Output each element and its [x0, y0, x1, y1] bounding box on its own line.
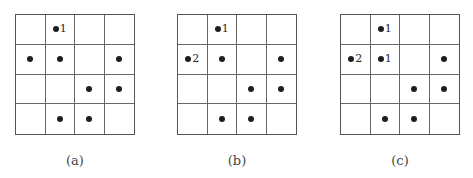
grid-cell: [237, 75, 267, 105]
dot-marker-icon: [248, 86, 254, 92]
grid-cell: [237, 15, 267, 45]
dot-marker-icon: [215, 26, 221, 32]
grid-cell: [430, 104, 460, 134]
grid-cell: [237, 104, 267, 134]
dot-marker-icon: [441, 56, 447, 62]
grid-cell: [430, 15, 460, 45]
grid-cell: [208, 104, 238, 134]
grid-cell: [237, 45, 267, 75]
grid-c: 121: [340, 14, 460, 135]
dot-marker-icon: [411, 116, 417, 122]
grid-cell: 1: [208, 15, 238, 45]
dot-marker-icon: [348, 56, 354, 62]
grid-b: 12: [177, 14, 297, 135]
dot-marker-icon: [278, 56, 284, 62]
grid-cell: [267, 75, 297, 105]
grid-cell: [430, 75, 460, 105]
grid-cell: [267, 15, 297, 45]
grid-cell: [400, 15, 430, 45]
caption-c: (c): [340, 153, 460, 168]
dot-marker-icon: [278, 86, 284, 92]
dot-marker-icon: [378, 56, 384, 62]
dot-marker-icon: [219, 116, 225, 122]
grid-cell: [178, 15, 208, 45]
grid-cell: [341, 75, 371, 105]
dot-label: 1: [385, 53, 392, 64]
grid-cell: [400, 45, 430, 75]
dot-marker-icon: [382, 116, 388, 122]
grid-cell: 2: [178, 45, 208, 75]
grid-cell: 1: [371, 15, 401, 45]
dot-marker-icon: [378, 26, 384, 32]
dot-marker-icon: [219, 56, 225, 62]
panel-c: 121 (c): [0, 0, 160, 178]
grid-cell: [267, 45, 297, 75]
dot-marker-icon: [248, 116, 254, 122]
dot-label: 2: [192, 53, 199, 64]
grid-cell: [341, 15, 371, 45]
grid-cell: [371, 104, 401, 134]
grid-cell: 2: [341, 45, 371, 75]
grid-cell: 1: [371, 45, 401, 75]
grid-cell: [178, 75, 208, 105]
grid-cell: [267, 104, 297, 134]
dot-marker-icon: [185, 56, 191, 62]
dot-label: 2: [355, 53, 362, 64]
grid-cell: [208, 75, 238, 105]
caption-b: (b): [177, 153, 297, 168]
grid-cell: [400, 75, 430, 105]
grid-cell: [178, 104, 208, 134]
dot-marker-icon: [411, 86, 417, 92]
grid-cell: [341, 104, 371, 134]
grid-cell: [430, 45, 460, 75]
grid-cell: [208, 45, 238, 75]
grid-cell: [371, 75, 401, 105]
dot-label: 1: [222, 24, 229, 35]
grid-cell: [400, 104, 430, 134]
dot-label: 1: [385, 24, 392, 35]
dot-marker-icon: [441, 86, 447, 92]
